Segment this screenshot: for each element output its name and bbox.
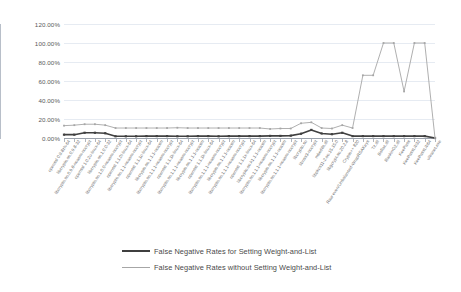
data-point-marker: [238, 135, 240, 137]
series-line-1: [64, 43, 435, 138]
data-point-marker: [290, 128, 292, 130]
data-point-marker: [382, 135, 384, 137]
data-point-marker: [413, 42, 415, 44]
data-point-marker: [84, 123, 86, 125]
data-point-marker: [331, 128, 333, 130]
data-point-marker: [403, 91, 405, 93]
legend-label-0: False Negative Rates for Setting Weight-…: [154, 247, 316, 256]
data-point-marker: [362, 74, 364, 76]
y-axis-tick-label: 20.00%: [38, 116, 60, 123]
data-point-marker: [145, 135, 147, 137]
data-point-marker: [156, 135, 158, 137]
plot-area: [64, 24, 435, 138]
data-point-marker: [166, 127, 168, 129]
data-point-marker: [135, 135, 137, 137]
data-point-marker: [372, 135, 374, 137]
data-point-marker: [403, 135, 405, 137]
y-axis-tick-label: 80.00%: [38, 59, 60, 66]
legend-item-1: False Negative Rates without Setting Wei…: [0, 259, 461, 275]
data-point-marker: [197, 135, 199, 137]
data-point-marker: [300, 122, 302, 124]
data-point-marker: [310, 121, 312, 123]
data-point-marker: [176, 127, 178, 129]
data-point-marker: [104, 124, 106, 126]
data-point-marker: [197, 127, 199, 129]
data-point-marker: [424, 42, 426, 44]
data-point-marker: [351, 135, 353, 137]
data-point-marker: [218, 127, 220, 129]
y-axis-line: [0, 24, 1, 139]
chart-container: 120.00%100.00%80.00%60.00%40.00%20.00%0.…: [0, 0, 461, 292]
data-point-marker: [84, 132, 86, 134]
data-point-marker: [238, 127, 240, 129]
data-point-marker: [393, 135, 395, 137]
data-point-marker: [63, 134, 65, 136]
legend-label-1: False Negative Rates without Setting Wei…: [154, 263, 331, 272]
data-point-marker: [217, 135, 219, 137]
data-point-marker: [207, 135, 209, 137]
data-point-marker: [352, 127, 354, 129]
data-point-marker: [228, 135, 230, 137]
data-point-marker: [94, 123, 96, 125]
data-point-marker: [279, 135, 281, 137]
data-point-marker: [207, 127, 209, 129]
data-point-marker: [115, 127, 117, 129]
data-point-marker: [166, 135, 168, 137]
data-point-marker: [125, 127, 127, 129]
y-axis-tick-label: 120.00%: [35, 21, 60, 28]
y-axis-tick-label: 100.00%: [35, 40, 60, 47]
x-axis-labels: openssl 0.9.8zh-64libcrypto.so.0.9.8-32l…: [64, 139, 435, 221]
data-point-marker: [341, 124, 343, 126]
data-point-marker: [280, 128, 282, 130]
chart-legend: False Negative Rates for Setting Weight-…: [0, 243, 461, 275]
data-point-marker: [321, 127, 323, 129]
data-point-marker: [176, 135, 178, 137]
data-point-marker: [187, 127, 189, 129]
data-point-marker: [383, 42, 385, 44]
data-point-marker: [249, 127, 251, 129]
data-point-marker: [424, 135, 426, 137]
data-point-marker: [248, 135, 250, 137]
data-point-marker: [156, 127, 158, 129]
data-point-marker: [146, 127, 148, 129]
legend-swatch-icon-0: [122, 250, 150, 252]
data-point-marker: [135, 127, 137, 129]
data-point-marker: [290, 135, 292, 137]
legend-swatch-icon-1: [122, 267, 150, 268]
data-point-marker: [331, 133, 333, 135]
data-point-marker: [321, 132, 323, 134]
data-point-marker: [94, 132, 96, 134]
data-point-marker: [362, 135, 364, 137]
series-layer: [64, 24, 435, 138]
data-point-marker: [269, 135, 271, 137]
data-point-marker: [104, 132, 106, 134]
data-point-marker: [125, 135, 127, 137]
data-point-marker: [187, 135, 189, 137]
data-point-marker: [393, 42, 395, 44]
data-point-marker: [73, 134, 75, 136]
data-point-marker: [413, 135, 415, 137]
data-point-marker: [310, 129, 312, 131]
data-point-marker: [63, 125, 65, 127]
data-point-marker: [372, 74, 374, 76]
y-axis-tick-label: 40.00%: [38, 97, 60, 104]
data-point-marker: [300, 133, 302, 135]
data-point-marker: [259, 135, 261, 137]
data-point-marker: [114, 135, 116, 137]
data-point-marker: [73, 124, 75, 126]
data-point-marker: [341, 132, 343, 134]
y-axis-tick-label: 0.00%: [42, 135, 60, 142]
legend-item-0: False Negative Rates for Setting Weight-…: [0, 243, 461, 259]
data-point-marker: [269, 128, 271, 130]
data-point-marker: [259, 127, 261, 129]
y-axis-tick-label: 60.00%: [38, 78, 60, 85]
data-point-marker: [228, 127, 230, 129]
